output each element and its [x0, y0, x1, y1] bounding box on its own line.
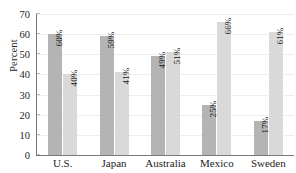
bar: 59%: [100, 36, 114, 155]
bar: 61%: [269, 32, 283, 155]
y-axis-ticks: 010203040506070: [0, 0, 36, 173]
bar-chart: Percent 010203040506070 60%40%59%41%49%5…: [0, 0, 296, 173]
bar-value-label: 51%: [173, 48, 182, 65]
y-tick-label: 10: [20, 129, 31, 140]
bar: 17%: [254, 121, 268, 155]
bar: 66%: [217, 22, 231, 155]
bar: 49%: [151, 56, 165, 155]
y-tick-label: 20: [20, 109, 31, 120]
y-tick-label: 40: [20, 69, 31, 80]
y-tick-label: 60: [20, 29, 31, 40]
bar-value-label: 60%: [55, 30, 64, 47]
y-tick-label: 70: [20, 9, 31, 20]
x-tick-label: Australia: [145, 157, 185, 169]
y-tick-label: 50: [20, 49, 31, 60]
bar-value-label: 59%: [107, 32, 116, 49]
y-tick-label: 30: [20, 89, 31, 100]
x-tick-label: Japan: [102, 157, 127, 169]
x-tick-label: U.S.: [53, 157, 73, 169]
bar: 40%: [63, 74, 77, 155]
bar-value-label: 40%: [70, 70, 79, 87]
x-tick-label: Mexico: [200, 157, 234, 169]
bar-value-label: 66%: [224, 18, 233, 35]
bar: 60%: [48, 34, 62, 155]
bars: 60%40%59%41%49%51%25%66%17%61%: [37, 14, 294, 155]
y-tick-label: 0: [25, 150, 30, 161]
bar: 51%: [166, 52, 180, 155]
plot-area: 60%40%59%41%49%51%25%66%17%61%: [37, 14, 294, 155]
x-axis-line: [36, 155, 294, 156]
x-tick-label: Sweden: [251, 157, 286, 169]
bar-value-label: 41%: [122, 68, 131, 85]
bar: 41%: [115, 72, 129, 155]
x-axis-labels: U.S.JapanAustraliaMexicoSweden: [37, 157, 294, 173]
bar: 25%: [202, 105, 216, 155]
bar-value-label: 61%: [276, 28, 285, 45]
